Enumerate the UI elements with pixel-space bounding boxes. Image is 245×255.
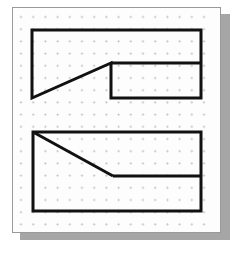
screenshot-root — [0, 0, 245, 255]
figure-layer — [13, 8, 220, 232]
lower-figure-outline — [33, 132, 201, 211]
paper-sheet — [12, 7, 221, 233]
lower-figure — [33, 132, 201, 211]
lower-figure-diagonal-line — [33, 132, 113, 176]
upper-figure — [32, 30, 201, 98]
